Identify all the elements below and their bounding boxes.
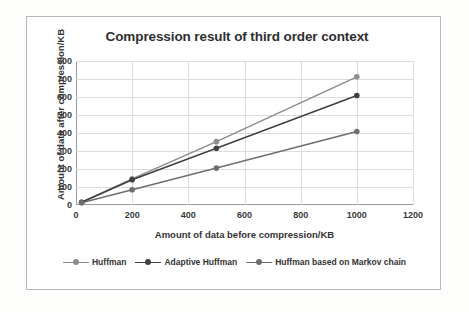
y-tick-label: 700 [57,74,72,84]
x-tick-label: 800 [293,210,308,220]
legend-item-2[interactable]: Adaptive Huffman [135,257,237,267]
series-line [82,96,357,203]
data-point [129,187,135,193]
plot-area: 0100200300400500600700800020040060080010… [76,61,413,205]
grid-line-vertical [413,61,414,205]
data-point [354,74,360,80]
legend-label: Huffman [92,257,126,267]
legend-item-3[interactable]: Huffman based on Markov chain [246,257,406,267]
x-tick-label: 0 [73,210,78,220]
series-line [82,132,357,203]
y-tick-label: 800 [57,56,72,66]
legend-label: Adaptive Huffman [164,257,237,267]
y-tick-label: 0 [67,200,72,210]
series-plot [76,61,413,205]
y-tick-label: 200 [57,164,72,174]
data-point [79,200,85,206]
legend-marker-icon [135,259,161,266]
x-axis-title: Amount of data before compression/KB [76,229,413,240]
data-point [129,177,135,183]
y-tick-label: 600 [57,92,72,102]
x-tick-label: 600 [237,210,252,220]
legend-label: Huffman based on Markov chain [275,257,406,267]
x-tick-label: 200 [125,210,140,220]
legend-marker-icon [246,259,272,266]
page-background: Compression result of third order contex… [0,0,469,312]
data-point [354,129,360,135]
chart-title: Compression result of third order contex… [67,29,407,44]
y-tick-label: 400 [57,128,72,138]
chart-frame: Compression result of third order contex… [26,16,441,290]
x-tick-label: 1200 [403,210,423,220]
data-point [214,139,220,145]
data-point [214,146,220,152]
x-tick-label: 1000 [347,210,367,220]
data-point [354,93,360,99]
legend-marker-icon [63,259,89,266]
y-tick-label: 300 [57,146,72,156]
y-tick-label: 100 [57,182,72,192]
y-tick-label: 500 [57,110,72,120]
x-tick-label: 400 [181,210,196,220]
data-point [214,165,220,171]
chart-legend: HuffmanAdaptive HuffmanHuffman based on … [27,257,442,267]
legend-item-1[interactable]: Huffman [63,257,126,267]
series-2 [79,93,360,205]
